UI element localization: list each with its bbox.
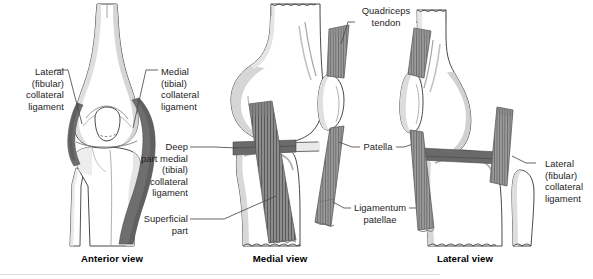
lateral-fibula [512, 170, 534, 246]
caption-anterior-view: Anterior view [57, 253, 167, 264]
caption-lateral-view: Lateral view [410, 253, 520, 264]
label-quadriceps-tendon: Quadriceps tendon [355, 5, 417, 28]
label-ligamentum-patellae: Ligamentum patellae [352, 202, 408, 225]
anterior-patella [95, 107, 120, 141]
knee-anatomy-figure [0, 0, 593, 279]
label-deep-part-medial-collateral-ligament: Deep part medial (tibial) collateral lig… [124, 141, 188, 199]
label-lateral-collateral-ligament-left: Lateral (fibular) collateral ligament [4, 66, 64, 112]
label-patella: Patella [362, 141, 394, 153]
label-superficial-part: Superficial part [124, 213, 188, 236]
lateral-tibia [424, 150, 502, 246]
label-medial-collateral-ligament: Medial (tibial) collateral ligament [161, 66, 223, 112]
label-lateral-collateral-ligament-right: Lateral (fibular) collateral ligament [545, 158, 593, 204]
caption-medial-view: Medial view [225, 253, 335, 264]
lateral-patella [400, 72, 423, 133]
